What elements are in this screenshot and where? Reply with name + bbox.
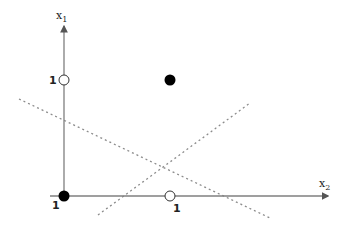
- top-left-point: [59, 75, 69, 85]
- vertical-tick-label: 1: [49, 74, 57, 87]
- xor-diagram: x1 x2 1 1 1: [0, 0, 346, 229]
- top-right-point: [165, 75, 176, 86]
- origin-point: [59, 191, 70, 202]
- horizontal-axis-label: x2: [319, 177, 330, 192]
- origin-tick-label: 1: [52, 199, 60, 212]
- bottom-right-point: [165, 191, 175, 201]
- horizontal-tick-label: 1: [173, 202, 181, 215]
- vertical-axis-label: x1: [56, 9, 67, 24]
